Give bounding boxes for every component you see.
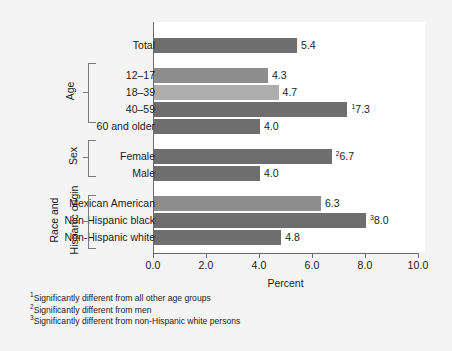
bracket-race	[88, 195, 96, 249]
bar-value-mexican-american: 6.3	[325, 196, 340, 211]
x-axis-tick-label-0.0: 0.0	[146, 259, 161, 271]
row-label-male: Male	[132, 166, 155, 181]
x-axis-tick-10.0	[418, 253, 419, 258]
x-axis-tick-label-6.0: 6.0	[305, 259, 320, 271]
row-label-female: Female	[120, 149, 155, 164]
bar-total	[154, 38, 297, 53]
bar-value-12-17: 4.3	[272, 68, 287, 83]
row-label-60-and-older: 60 and older	[97, 119, 155, 134]
group-title-sex: Sex	[67, 136, 79, 176]
x-axis-tick-label-10.0: 10.0	[408, 259, 429, 271]
bar-18-39	[154, 85, 279, 100]
bracket-age	[88, 63, 96, 123]
x-axis-tick-label-2.0: 2.0	[199, 259, 214, 271]
footnote-text: Significantly different from non-Hispani…	[34, 316, 241, 326]
bar-value-18-39: 4.7	[283, 85, 298, 100]
x-axis-tick-4.0	[259, 253, 260, 258]
bar-value-40-59: 17.3	[351, 102, 370, 117]
bar-male	[154, 166, 260, 181]
footnote-text: Significantly different from all other a…	[34, 293, 211, 303]
x-axis-tick-0.0	[153, 253, 154, 258]
x-axis-tick-6.0	[312, 253, 313, 258]
x-axis-tick-label-8.0: 8.0	[358, 259, 373, 271]
row-label-18-39: 18–39	[126, 85, 155, 100]
row-label-mexican-american: Mexican American	[69, 196, 155, 211]
bar-non-hispanic-black	[154, 213, 366, 228]
footnote-2: 2Significantly different from men	[30, 305, 430, 317]
value-text: 7.3	[355, 103, 370, 115]
bar-value-non-hispanic-black: 38.0	[370, 213, 389, 228]
x-axis-line	[153, 253, 418, 254]
bar-60-and-older	[154, 119, 260, 134]
bar-value-female: 26.7	[336, 149, 355, 164]
value-text: 6.7	[339, 150, 354, 162]
bar-40-59	[154, 102, 347, 117]
bracket-sex	[88, 140, 96, 177]
group-title-age: Age	[64, 71, 76, 111]
bar-value-total: 5.4	[301, 38, 316, 53]
bar-12-17	[154, 68, 268, 83]
value-text: 4.8	[285, 231, 300, 243]
value-text: 6.3	[325, 197, 340, 209]
value-text: 5.4	[301, 39, 316, 51]
footnote-1: 1Significantly different from all other …	[30, 293, 430, 305]
x-axis-tick-label-4.0: 4.0	[252, 259, 267, 271]
bar-non-hispanic-white	[154, 230, 281, 245]
row-label-total: Total	[133, 38, 155, 53]
group-title-race-line2: Hispanic origin	[68, 180, 80, 260]
value-text: 4.3	[272, 69, 287, 81]
group-title-race-line1: Race and	[48, 180, 60, 260]
footnotes: 1Significantly different from all other …	[30, 293, 430, 328]
x-axis-tick-2.0	[206, 253, 207, 258]
x-axis-tick-8.0	[365, 253, 366, 258]
bracket-race-tick	[83, 221, 88, 222]
bar-female	[154, 149, 332, 164]
bar-mexican-american	[154, 196, 321, 211]
figure-container: 0.02.04.06.08.010.0 Percent 5.44.34.717.…	[0, 0, 452, 351]
value-text: 4.7	[283, 86, 298, 98]
row-label-12-17: 12–17	[126, 68, 155, 83]
bracket-sex-tick	[83, 157, 88, 158]
value-text: 4.0	[264, 120, 279, 132]
row-label-40-59: 40–59	[126, 102, 155, 117]
bracket-age-tick	[83, 92, 88, 93]
value-text: 4.0	[264, 167, 279, 179]
footnote-3: 3Significantly different from non-Hispan…	[30, 316, 430, 328]
bar-value-male: 4.0	[264, 166, 279, 181]
bar-value-non-hispanic-white: 4.8	[285, 230, 300, 245]
bar-value-60-and-older: 4.0	[264, 119, 279, 134]
value-text: 8.0	[374, 214, 389, 226]
footnote-text: Significantly different from men	[34, 305, 152, 315]
x-axis-title: Percent	[153, 277, 418, 289]
